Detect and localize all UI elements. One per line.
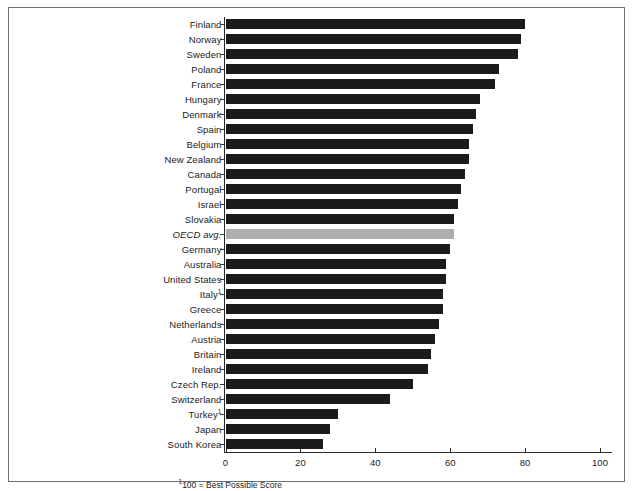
chart-bar-row: Portugal: [0, 182, 633, 197]
y-axis-tick: [220, 399, 224, 400]
category-label: Slovakia: [22, 212, 222, 227]
bar: [226, 64, 499, 74]
bar: [226, 19, 526, 29]
y-axis-tick: [220, 69, 224, 70]
y-axis-tick: [220, 144, 224, 145]
category-label: Norway: [22, 32, 222, 47]
bar: [226, 94, 481, 104]
bar: [226, 289, 443, 299]
plot-area: FinlandNorwaySwedenPolandFranceHungaryDe…: [0, 0, 633, 491]
bar: [226, 334, 436, 344]
x-axis-tick: [450, 448, 451, 453]
category-label: Ireland: [22, 362, 222, 377]
category-label: Switzerland: [22, 392, 222, 407]
chart-bar-row: Slovakia: [0, 212, 633, 227]
category-label: New Zealand: [22, 152, 222, 167]
bar: [226, 109, 477, 119]
chart-bar-row: OECD avg.: [0, 227, 633, 242]
category-label: Israel: [22, 197, 222, 212]
category-label: Sweden: [22, 47, 222, 62]
bar: [226, 319, 439, 329]
x-axis-tick: [600, 448, 601, 453]
chart-bar-row: Finland: [0, 17, 633, 32]
bar: [226, 244, 451, 254]
y-axis-tick: [220, 39, 224, 40]
bar: [226, 304, 443, 314]
y-axis-tick: [220, 354, 224, 355]
chart-bar-row: South Korea: [0, 437, 633, 452]
y-axis-tick: [220, 234, 224, 235]
category-label: Portugal: [22, 182, 222, 197]
bar: [226, 34, 522, 44]
y-axis-tick: [220, 114, 224, 115]
bar: [226, 184, 462, 194]
y-axis-tick: [220, 204, 224, 205]
bar: [226, 124, 473, 134]
chart-bar-row: France: [0, 77, 633, 92]
category-label: Australia: [22, 257, 222, 272]
chart-bar-row: Italy1: [0, 287, 633, 302]
chart-bar-row: Ireland: [0, 362, 633, 377]
y-axis-tick: [220, 219, 224, 220]
bar: [226, 379, 413, 389]
x-axis-tick-label: 40: [355, 457, 395, 468]
chart-bar-row: Germany: [0, 242, 633, 257]
chart-footnote: 1100 = Best Possible Score: [179, 480, 283, 490]
bar: [226, 169, 466, 179]
category-label: Finland: [22, 17, 222, 32]
category-label: Denmark: [22, 107, 222, 122]
y-axis-tick: [220, 414, 224, 415]
y-axis-tick: [220, 309, 224, 310]
chart-bar-row: New Zealand: [0, 152, 633, 167]
x-axis-tick-label: 0: [206, 457, 246, 468]
chart-bar-row: Turkey1: [0, 407, 633, 422]
y-axis-tick: [220, 99, 224, 100]
x-axis-line: [224, 452, 613, 453]
chart-bar-row: United States: [0, 272, 633, 287]
category-label: Italy1: [22, 287, 222, 302]
bar: [226, 424, 331, 434]
bar: [226, 439, 323, 449]
category-label: South Korea: [22, 437, 222, 452]
y-axis-tick: [220, 174, 224, 175]
chart-bar-row: Netherlands: [0, 317, 633, 332]
chart-figure: FinlandNorwaySwedenPolandFranceHungaryDe…: [0, 0, 633, 491]
bar: [226, 154, 469, 164]
y-axis-tick: [220, 24, 224, 25]
category-label: Canada: [22, 167, 222, 182]
y-axis-tick: [220, 159, 224, 160]
category-label: Britain: [22, 347, 222, 362]
category-label: OECD avg.: [22, 227, 222, 242]
bar: [226, 364, 428, 374]
category-label: France: [22, 77, 222, 92]
y-axis-tick: [220, 249, 224, 250]
category-label: Greece: [22, 302, 222, 317]
y-axis-tick: [220, 339, 224, 340]
y-axis-tick: [220, 429, 224, 430]
bar: [226, 214, 454, 224]
chart-bar-row: Belgium: [0, 137, 633, 152]
chart-bar-row: Britain: [0, 347, 633, 362]
x-axis-tick: [226, 448, 227, 453]
x-axis-tick: [375, 448, 376, 453]
chart-bar-row: Spain: [0, 122, 633, 137]
y-axis-tick: [220, 264, 224, 265]
category-label: United States: [22, 272, 222, 287]
y-axis-tick: [220, 54, 224, 55]
chart-bar-row: Austria: [0, 332, 633, 347]
category-label: Germany: [22, 242, 222, 257]
bar: [226, 139, 469, 149]
category-label: Japan: [22, 422, 222, 437]
y-axis-tick: [220, 294, 224, 295]
y-axis-tick: [220, 444, 224, 445]
chart-bar-row: Switzerland: [0, 392, 633, 407]
x-axis-tick: [300, 448, 301, 453]
bar: [226, 274, 447, 284]
chart-bar-row: Hungary: [0, 92, 633, 107]
x-axis-tick-label: 80: [505, 457, 545, 468]
chart-bar-row: Denmark: [0, 107, 633, 122]
y-axis-tick: [220, 189, 224, 190]
chart-bar-row: Czech Rep.: [0, 377, 633, 392]
category-label: Czech Rep.: [22, 377, 222, 392]
chart-bar-row: Israel: [0, 197, 633, 212]
